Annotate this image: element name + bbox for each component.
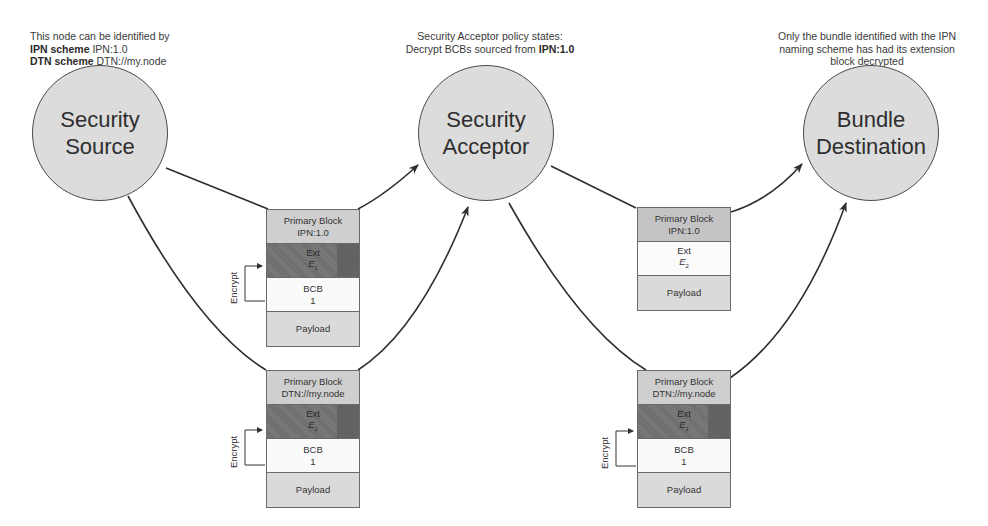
policy-source-id: IPN:1.0 [539, 43, 575, 55]
ext-letter: E [308, 419, 314, 430]
encrypt-label: Encrypt [228, 272, 239, 304]
primary-block: Primary Block DTN://my.node [267, 371, 359, 405]
source-identification-note: This node can be identified by IPN schem… [30, 30, 170, 68]
block-title: Ext [306, 247, 320, 259]
note-text: naming scheme has had its extension [762, 43, 972, 56]
note-text: Only the bundle identified with the IPN [762, 30, 972, 43]
edge-ipn-bundle-to-destination [731, 164, 802, 212]
block-title: Primary Block [655, 213, 714, 225]
note-policy-line: Decrypt BCBs sourced from IPN:1.0 [395, 43, 585, 56]
bundle-acceptor-ipn: Primary Block IPN:1.0 Ext E2 Payload [637, 207, 731, 311]
encrypt-label: Encrypt [599, 437, 610, 469]
block-title: BCB [303, 444, 323, 456]
encrypt-bracket-src-dtn [245, 430, 265, 465]
bundle-destination-node: BundleDestination [803, 65, 939, 201]
block-title: Ext [677, 245, 691, 257]
security-source-node: SecuritySource [32, 65, 168, 201]
bundle-source-dtn: Primary Block DTN://my.node Ext E1 BCB 1… [266, 370, 360, 508]
ipn-scheme-label: IPN scheme [30, 43, 90, 55]
block-title: BCB [303, 283, 323, 295]
node-label: Destination [816, 133, 926, 160]
primary-block: Primary Block IPN:1.0 [267, 210, 359, 244]
block-title: BCB [674, 444, 694, 456]
encrypt-bracket-src-ipn [245, 266, 265, 301]
edge-dtn-bundle-to-acceptor [358, 207, 468, 370]
security-acceptor-node: SecurityAcceptor [418, 65, 554, 201]
block-id: IPN:1.0 [297, 227, 329, 239]
block-id: 1 [681, 456, 686, 468]
payload-block: Payload [638, 473, 730, 507]
extension-block-encrypted: Ext E1 [267, 405, 359, 439]
block-id: 1 [310, 295, 315, 307]
bundle-acceptor-dtn: Primary Block DTN://my.node Ext E1 BCB 1… [637, 370, 731, 508]
node-label: Security [60, 106, 139, 133]
note-text: Security Acceptor policy states: [395, 30, 585, 43]
payload-block: Payload [267, 473, 359, 507]
edge-dtn-bundle-to-destination [730, 203, 846, 378]
dtn-scheme-label: DTN scheme [30, 55, 94, 67]
acceptor-policy-note: Security Acceptor policy states: Decrypt… [395, 30, 585, 55]
primary-block: Primary Block IPN:1.0 [638, 208, 730, 242]
ext-symbol: E1 [308, 419, 318, 435]
primary-block: Primary Block DTN://my.node [638, 371, 730, 405]
extension-block-encrypted: Ext E1 [267, 244, 359, 278]
node-label: Bundle [816, 106, 926, 133]
node-label: Security [443, 106, 530, 133]
block-title: Payload [296, 484, 330, 496]
ext-letter: E [308, 258, 314, 269]
block-title: Ext [306, 408, 320, 420]
node-label: Acceptor [443, 133, 530, 160]
encrypt-label: Encrypt [228, 436, 239, 468]
edge-acceptor-to-dtn-bundle [509, 203, 646, 370]
bundle-source-ipn: Primary Block IPN:1.0 Ext E1 BCB 1 Paylo… [266, 209, 360, 347]
encrypt-bracket-acc-dtn [616, 431, 636, 466]
block-title: Primary Block [655, 376, 714, 388]
bcb-block: BCB 1 [267, 278, 359, 312]
block-title: Primary Block [284, 215, 343, 227]
block-id: 1 [310, 456, 315, 468]
policy-text: Decrypt BCBs sourced from [406, 43, 539, 55]
ext-letter: E [679, 419, 685, 430]
extension-block-decrypted: Ext E2 [638, 242, 730, 276]
ext-index: 1 [315, 265, 318, 271]
block-id: DTN://my.node [652, 388, 715, 400]
ext-index: 1 [686, 426, 689, 432]
node-label: Source [60, 133, 139, 160]
block-title: Primary Block [284, 376, 343, 388]
block-title: Payload [667, 287, 701, 299]
block-title: Ext [677, 408, 691, 420]
payload-block: Payload [638, 276, 730, 310]
edge-source-to-ipn-bundle [166, 168, 268, 209]
block-title: Payload [296, 323, 330, 335]
edge-acceptor-to-ipn-bundle [551, 166, 636, 208]
block-id: DTN://my.node [281, 388, 344, 400]
destination-note: Only the bundle identified with the IPN … [762, 30, 972, 68]
ext-symbol: E2 [679, 256, 689, 272]
extension-block-encrypted: Ext E1 [638, 405, 730, 439]
payload-block: Payload [267, 312, 359, 346]
note-ipn-line: IPN scheme IPN:1.0 [30, 43, 170, 56]
ext-symbol: E1 [679, 419, 689, 435]
ext-index: 2 [686, 263, 689, 269]
block-id: IPN:1.0 [668, 225, 700, 237]
note-text: This node can be identified by [30, 30, 170, 43]
bcb-block: BCB 1 [267, 439, 359, 473]
ext-symbol: E1 [308, 258, 318, 274]
ext-index: 1 [315, 426, 318, 432]
bcb-block: BCB 1 [638, 439, 730, 473]
block-title: Payload [667, 484, 701, 496]
edge-ipn-bundle-to-acceptor [358, 165, 418, 209]
ipn-scheme-value: IPN:1.0 [90, 43, 128, 55]
